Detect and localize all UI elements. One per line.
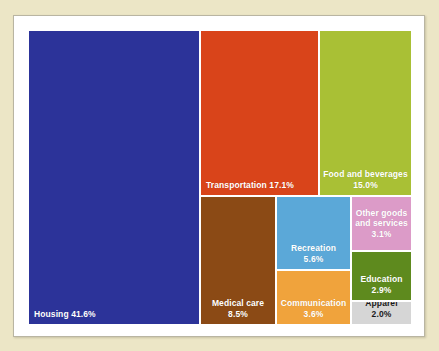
treemap-tile-housing[interactable]: Housing 41.6% bbox=[29, 31, 199, 324]
tile-label-line: Medical care bbox=[201, 298, 275, 309]
tile-label-food-and-beverages: Food and beverages15.0% bbox=[320, 169, 411, 190]
tile-label-line: 2.9% bbox=[352, 285, 411, 296]
tile-label-line: 3.6% bbox=[277, 309, 350, 320]
treemap-tile-medical-care[interactable]: Medical care8.5% bbox=[201, 197, 275, 324]
tile-label-line: and services bbox=[352, 218, 411, 229]
tile-label-line: Transportation 17.1% bbox=[206, 180, 318, 191]
tile-label-line: Other goods bbox=[352, 208, 411, 219]
treemap-tile-other-goods-and-services[interactable]: Other goodsand services3.1% bbox=[352, 197, 411, 250]
tile-label-line: 2.0% bbox=[352, 309, 411, 320]
treemap-tile-food-and-beverages[interactable]: Food and beverages15.0% bbox=[320, 31, 411, 195]
treemap-tile-recreation[interactable]: Recreation5.6% bbox=[277, 197, 350, 269]
tile-label-line: Housing 41.6% bbox=[34, 309, 199, 320]
treemap-tile-education[interactable]: Education2.9% bbox=[352, 252, 411, 300]
tile-label-line: Food and beverages bbox=[320, 169, 411, 180]
tile-label-education: Education2.9% bbox=[352, 274, 411, 295]
tile-label-line: 8.5% bbox=[201, 309, 275, 320]
tile-label-line: 15.0% bbox=[320, 180, 411, 191]
tile-label-line: Education bbox=[352, 274, 411, 285]
treemap-tile-transportation[interactable]: Transportation 17.1% bbox=[201, 31, 318, 195]
tile-label-line: Recreation bbox=[277, 243, 350, 254]
tile-label-communication: Communication3.6% bbox=[277, 298, 350, 319]
tile-label-recreation: Recreation5.6% bbox=[277, 243, 350, 264]
treemap-tile-apparel[interactable]: Apparel2.0% bbox=[352, 302, 411, 324]
tile-label-transportation: Transportation 17.1% bbox=[201, 180, 318, 191]
tile-label-apparel: Apparel2.0% bbox=[352, 302, 411, 319]
tile-label-other-goods-and-services: Other goodsand services3.1% bbox=[352, 208, 411, 240]
chart-frame: Housing 41.6%Transportation 17.1%Food an… bbox=[13, 15, 425, 337]
tile-label-line: Communication bbox=[277, 298, 350, 309]
tile-label-medical-care: Medical care8.5% bbox=[201, 298, 275, 319]
tile-label-housing: Housing 41.6% bbox=[29, 309, 199, 320]
treemap-chart: Housing 41.6%Transportation 17.1%Food an… bbox=[29, 31, 411, 324]
tile-label-line: 5.6% bbox=[277, 254, 350, 265]
tile-label-line: 3.1% bbox=[352, 229, 411, 240]
treemap-tile-communication[interactable]: Communication3.6% bbox=[277, 271, 350, 324]
